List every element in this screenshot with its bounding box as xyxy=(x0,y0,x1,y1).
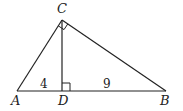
right-angle-mark-d xyxy=(62,83,70,91)
label-b: B xyxy=(159,93,170,108)
label-d: D xyxy=(57,93,69,108)
length-db: 9 xyxy=(103,77,111,91)
label-a: A xyxy=(10,93,20,108)
length-ad: 4 xyxy=(40,77,48,91)
right-angle-mark-c xyxy=(58,24,68,30)
segment-cb xyxy=(62,20,166,91)
label-c: C xyxy=(57,1,67,16)
triangle-diagram: C A D B 4 9 xyxy=(0,0,183,111)
